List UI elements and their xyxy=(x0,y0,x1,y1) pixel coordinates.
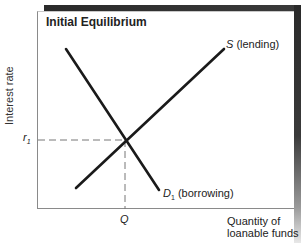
x-axis-label: Quantity of loanable funds xyxy=(227,215,299,239)
y-axis-label: Interest rate xyxy=(3,66,15,125)
r-subscript: 1 xyxy=(27,138,31,145)
q-tick-label: Q xyxy=(120,213,129,225)
supply-descriptor: (lending) xyxy=(233,38,279,50)
r1-tick-label: r1 xyxy=(23,131,31,145)
demand-curve xyxy=(66,49,159,190)
supply-label: S (lending) xyxy=(226,38,279,50)
demand-symbol: D xyxy=(163,187,171,199)
supply-curve xyxy=(76,49,224,188)
demand-label: D1 (borrowing) xyxy=(163,187,234,201)
demand-descriptor: (borrowing) xyxy=(175,187,234,199)
x-axis-label-line1: Quantity of xyxy=(227,215,299,227)
x-axis-label-line2: loanable funds xyxy=(227,227,299,239)
